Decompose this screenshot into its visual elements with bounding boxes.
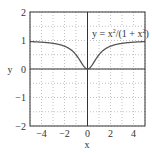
x-axis-label: x [85, 139, 90, 150]
chart: −4−2024 −2−1012 x y y = x2/(1 + x2) [0, 0, 152, 153]
x-tick-label: −4 [36, 128, 47, 139]
x-tick-label: 0 [85, 128, 90, 139]
y-tick-label: 1 [21, 35, 26, 46]
y-tick-label: 2 [21, 7, 26, 18]
y-axis-label: y [8, 64, 13, 75]
x-tick-labels: −4−2024 [36, 128, 136, 139]
x-tick-label: −2 [59, 128, 70, 139]
y-tick-label: −1 [15, 92, 26, 103]
x-tick-label: 4 [131, 128, 136, 139]
y-tick-labels: −2−1012 [15, 7, 26, 132]
y-tick-label: 0 [21, 64, 26, 75]
function-annotation: y = x2/(1 + x2) [92, 28, 149, 40]
y-tick-label: −2 [15, 121, 26, 132]
x-tick-label: 2 [108, 128, 113, 139]
